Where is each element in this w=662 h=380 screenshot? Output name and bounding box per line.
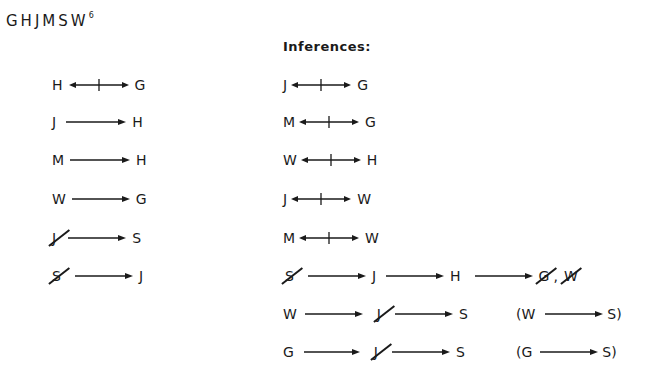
not-both-arrow-icon xyxy=(69,79,129,91)
rule-term: J xyxy=(139,267,143,285)
inference-row: M W xyxy=(283,229,379,247)
inference-term: H xyxy=(450,267,461,285)
inference-term: S xyxy=(459,305,468,323)
implies-arrow-icon xyxy=(386,270,444,282)
negated-term: G xyxy=(539,267,550,285)
not-both-arrow-icon xyxy=(301,154,361,166)
negated-term: J xyxy=(377,305,381,323)
rule-row: H G xyxy=(52,76,145,94)
implies-arrow-icon xyxy=(305,308,363,320)
implies-arrow-icon xyxy=(545,308,603,320)
summary-row: (W S) xyxy=(516,305,622,323)
inference-term: G xyxy=(357,76,368,94)
inference-row: M G xyxy=(283,113,376,131)
implies-arrow-icon xyxy=(68,232,126,244)
rule-row: M H xyxy=(52,151,147,169)
negated-term: S xyxy=(285,267,294,285)
rule-term: S xyxy=(132,229,141,247)
separator-comma: , xyxy=(553,268,557,284)
inference-term: S xyxy=(456,343,465,361)
summary-row: (G S) xyxy=(516,343,617,361)
inference-chain-row: S J H G , W xyxy=(285,267,578,285)
summary-term: S) xyxy=(607,305,621,323)
inference-term: W xyxy=(365,229,379,247)
implies-arrow-icon xyxy=(75,270,133,282)
inference-row: W H xyxy=(283,151,377,169)
implies-arrow-icon xyxy=(304,346,360,358)
inference-term: W xyxy=(357,190,371,208)
implies-arrow-icon xyxy=(70,154,130,166)
negated-term: W xyxy=(564,267,578,285)
negated-term: S xyxy=(52,267,61,285)
not-both-arrow-icon xyxy=(299,232,359,244)
rule-term: W xyxy=(52,190,66,208)
negated-term: J xyxy=(52,229,56,247)
inference-term: M xyxy=(283,229,295,247)
not-both-arrow-icon xyxy=(291,193,351,205)
not-both-arrow-icon xyxy=(291,79,351,91)
rule-term: G xyxy=(135,76,146,94)
implies-arrow-icon xyxy=(395,308,453,320)
rule-term: H xyxy=(136,151,147,169)
rule-row: W G xyxy=(52,190,147,208)
implies-arrow-icon xyxy=(540,346,598,358)
rule-row: J S xyxy=(52,229,141,247)
game-setup-title: GHJMSW6 xyxy=(6,12,94,30)
rule-row: J H xyxy=(52,113,143,131)
implies-arrow-icon xyxy=(308,270,366,282)
summary-term: S) xyxy=(602,343,616,361)
inference-term: J xyxy=(283,190,287,208)
inference-row: J G xyxy=(283,76,368,94)
inferences-heading: Inferences: xyxy=(283,39,371,54)
inference-term: H xyxy=(367,151,378,169)
rule-term: J xyxy=(52,113,56,131)
inference-row: J W xyxy=(283,190,371,208)
summary-term: (G xyxy=(516,343,532,361)
inference-term: M xyxy=(283,113,295,131)
rule-term: M xyxy=(52,151,64,169)
negated-term: J xyxy=(374,343,378,361)
inference-term: J xyxy=(283,76,287,94)
not-both-arrow-icon xyxy=(299,116,359,128)
summary-term: (W xyxy=(516,305,535,323)
inference-chain-row: W J S xyxy=(283,305,468,323)
inference-term: J xyxy=(372,267,376,285)
rule-term: H xyxy=(132,113,143,131)
inference-chain-row: G J S xyxy=(283,343,465,361)
inference-term: G xyxy=(365,113,376,131)
inference-term: W xyxy=(283,305,297,323)
implies-arrow-icon xyxy=(72,193,130,205)
variable-letters: GHJMSW xyxy=(6,12,89,30)
inference-term: W xyxy=(283,151,297,169)
rule-row: S J xyxy=(52,267,143,285)
implies-arrow-icon xyxy=(475,270,533,282)
rule-term: H xyxy=(52,76,63,94)
inference-term: G xyxy=(283,343,294,361)
variable-count: 6 xyxy=(89,11,94,20)
rule-term: G xyxy=(136,190,147,208)
implies-arrow-icon xyxy=(392,346,450,358)
implies-arrow-icon xyxy=(66,116,126,128)
